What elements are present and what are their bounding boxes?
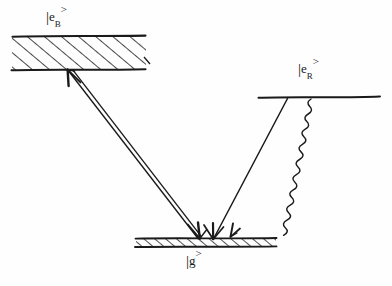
transition-red-decay [231, 99, 312, 237]
transition-blue-drive [68, 69, 207, 239]
ket-base-g: g [189, 253, 196, 268]
level-eB-bottom-edge [12, 69, 146, 70]
ket-base-eR: e [301, 61, 307, 76]
blue-drive-shaft-right [72, 69, 201, 237]
ket-close-g: > [196, 247, 202, 259]
level-eR [259, 96, 381, 97]
ket-close-eB: > [61, 3, 67, 15]
red-decay-arrowhead [231, 224, 241, 237]
red-decay-wavy-shaft [283, 99, 311, 235]
level-label-eR: |eR> [298, 58, 319, 79]
transition-red-drive [204, 99, 288, 240]
ket-sub-eB: B [55, 19, 61, 29]
level-eB [12, 36, 151, 71]
ket-bar-eR: | [298, 61, 301, 77]
ket-close-eR: > [313, 55, 319, 67]
level-g-hatch-fill [136, 238, 276, 246]
level-eB-top-edge [13, 36, 146, 37]
level-label-g: |g> [186, 250, 202, 271]
level-g [135, 238, 277, 247]
ket-bar-g: | [186, 253, 189, 269]
ket-bar-eB: | [46, 9, 49, 25]
ket-sub-eR: R [307, 71, 313, 81]
level-label-eB: |eB> [46, 6, 67, 27]
level-g-bottom-edge [135, 246, 277, 247]
red-drive-shaft [215, 99, 288, 238]
level-eR-line [259, 96, 381, 97]
ket-base-eB: e [49, 9, 55, 24]
diagram-canvas: |eB> |eR> |g> [0, 0, 392, 286]
blue-drive-shaft-left [69, 71, 199, 239]
level-eB-hatch-fill [12, 36, 146, 70]
energy-level-diagram-svg [0, 0, 392, 286]
level-g-top-edge [136, 238, 277, 239]
